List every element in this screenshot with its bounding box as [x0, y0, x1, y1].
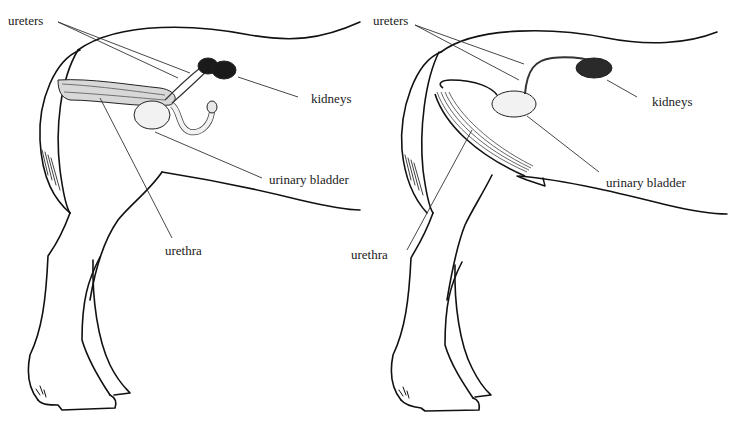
cannon-back-outline	[93, 260, 130, 395]
label-urethra: urethra	[351, 248, 388, 261]
leg-front-outline	[90, 172, 162, 300]
leg-back-outline	[28, 213, 70, 400]
diagram-panel-right: ureters kidneys urinary bladder urethra	[367, 0, 737, 431]
fetlock-hair	[399, 387, 409, 398]
horse-hindquarter-drawing-right	[367, 0, 737, 431]
horse-hindquarter-drawing-left	[0, 0, 370, 431]
hoof-outline	[401, 398, 479, 411]
ovary	[207, 101, 217, 113]
label-urethra: urethra	[165, 244, 202, 257]
urinary-organs-right	[435, 57, 612, 176]
cannon-outline	[82, 257, 110, 395]
urinary-bladder-left	[134, 101, 170, 129]
hoof-outline	[38, 395, 116, 410]
leader-lines-left	[58, 22, 298, 238]
cannon-outline	[445, 262, 473, 398]
urinary-bladder-right	[492, 91, 536, 117]
kidney-right	[576, 58, 612, 78]
fetlock-hair	[36, 386, 46, 397]
kidney-left-2	[212, 61, 236, 79]
label-ureters: ureters	[8, 14, 43, 27]
label-kidneys: kidneys	[311, 92, 351, 105]
label-kidneys: kidneys	[652, 95, 692, 108]
tail-hair	[405, 155, 423, 195]
label-urinary-bladder: urinary bladder	[606, 176, 686, 189]
tail-inner-outline	[58, 50, 78, 213]
tail-inner-outline	[422, 52, 439, 213]
label-ureters: ureters	[373, 14, 408, 27]
urinary-organs-left	[58, 58, 236, 132]
label-urinary-bladder: urinary bladder	[269, 173, 349, 186]
diagram-panel-left: ureters kidneys urinary bladder urethra	[0, 0, 370, 431]
